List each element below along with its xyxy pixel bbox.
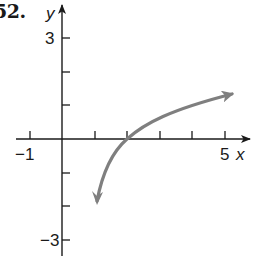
x-tick-label-5: 5 — [220, 145, 229, 164]
y-tick-label-3: 3 — [45, 29, 54, 48]
y-axis-label: y — [45, 4, 56, 23]
x-axis-label: x — [235, 145, 245, 164]
graph: y 3 −3 −1 5 x — [0, 0, 259, 258]
x-tick-label-neg1: −1 — [15, 145, 34, 164]
curve-ln — [97, 94, 232, 201]
y-tick-label-neg3: −3 — [40, 231, 59, 250]
